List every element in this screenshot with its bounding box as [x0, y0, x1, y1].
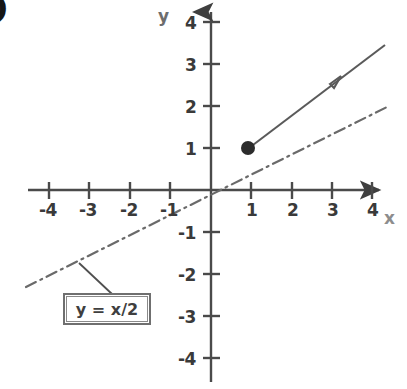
callout-leader-line: [79, 263, 112, 294]
y-tick-label--4: -4: [178, 349, 196, 369]
y-tick-label-2: 2: [185, 97, 196, 117]
x-tick-label--1: -1: [160, 200, 178, 220]
y-tick-label-3: 3: [185, 55, 196, 75]
y-tick-label-1: 1: [185, 139, 196, 159]
y-tick-label--2: -2: [178, 265, 196, 285]
y-tick-label--3: -3: [178, 307, 196, 327]
plot-canvas: [0, 0, 407, 389]
x-axis: [28, 182, 379, 199]
dashdot-line-series: [26, 106, 389, 287]
x-tick-label--2: -2: [120, 200, 138, 220]
y-tick-label-4: 4: [185, 13, 196, 33]
solid-ray-start-point: [241, 141, 255, 155]
x-tick-label-3: 3: [327, 200, 338, 220]
x-tick-label--4: -4: [39, 200, 57, 220]
y-tick-label--1: -1: [178, 223, 196, 243]
equation-callout-text: y = x/2: [76, 300, 138, 319]
x-tick-label-4: 4: [367, 200, 378, 220]
equation-callout-inner: y = x/2: [66, 296, 148, 322]
coordinate-plane-figure: ): [0, 0, 407, 389]
x-tick-label--3: -3: [79, 200, 97, 220]
x-tick-label-1: 1: [246, 200, 257, 220]
equation-callout-box: y = x/2: [63, 293, 151, 325]
solid-ray-series: [241, 45, 385, 155]
x-tick-label-2: 2: [287, 200, 298, 220]
y-axis-label: y: [158, 6, 169, 26]
x-axis-label: x: [384, 208, 395, 228]
